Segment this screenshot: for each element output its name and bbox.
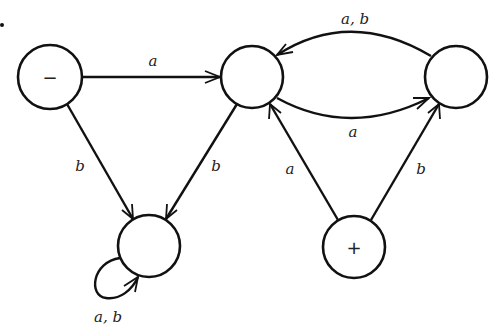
edge-label: a bbox=[286, 160, 295, 178]
final-state-plus-mark: + bbox=[346, 237, 361, 258]
state-s3 bbox=[425, 46, 487, 108]
state-final: + bbox=[323, 216, 385, 278]
corner-dot bbox=[0, 23, 4, 27]
edge-s2-to-s3: a bbox=[277, 98, 429, 141]
edge-label: b bbox=[75, 157, 85, 175]
start-state-minus-mark: − bbox=[42, 67, 57, 88]
edge-s3-to-s2: a, b bbox=[277, 10, 431, 56]
arrowhead-icon bbox=[124, 277, 138, 292]
edge-label: b bbox=[211, 157, 221, 175]
edge-label: b bbox=[416, 160, 426, 178]
edge-label: a bbox=[149, 52, 158, 70]
edge-label: a, b bbox=[341, 10, 369, 28]
edge-s5-to-s2: a bbox=[269, 104, 338, 220]
edge-s1-to-s2: a bbox=[82, 52, 220, 83]
edge-label: a, b bbox=[94, 308, 122, 326]
state-s2 bbox=[221, 46, 283, 108]
state-start: − bbox=[18, 45, 82, 109]
edge-label: a bbox=[349, 123, 358, 141]
edge-s2-to-s4: b bbox=[166, 104, 237, 219]
state-s4 bbox=[118, 215, 180, 277]
automaton-diagram: a b b a a, b a b a, b bbox=[0, 0, 489, 334]
edge-s1-to-s4: b bbox=[67, 104, 133, 219]
edge-s5-to-s3: b bbox=[371, 104, 440, 220]
